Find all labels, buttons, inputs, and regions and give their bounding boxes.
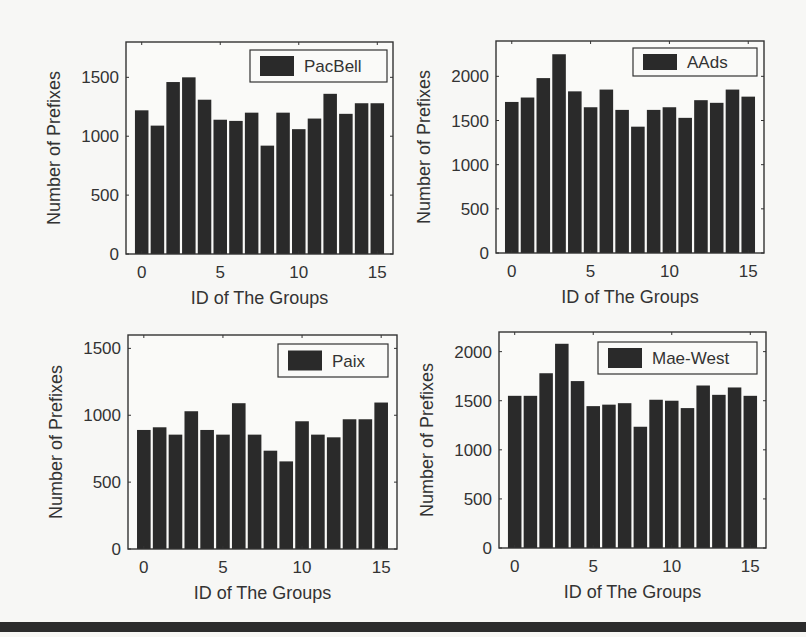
bottom-rule [0,622,806,632]
bar [198,100,212,254]
y-tick-label: 1000 [81,127,119,146]
y-tick-label: 2000 [451,67,489,86]
bar [600,90,614,253]
bar [264,451,278,549]
legend: PacBell [250,50,387,82]
y-tick-label: 500 [91,186,119,205]
legend-swatch [643,54,677,70]
bar [584,107,598,253]
x-tick-label: 15 [741,557,760,576]
legend-label: Mae-West [652,349,729,368]
bar [537,78,551,253]
bar [308,119,322,254]
y-axis-label: Number of Prefixes [417,363,437,517]
bar [232,403,246,549]
bar [311,435,325,549]
x-tick-label: 15 [368,263,387,282]
bar [634,427,648,548]
bar [571,381,585,548]
bar [521,98,535,253]
bar [151,126,165,254]
bar [618,403,632,548]
bar [169,435,183,549]
bar [371,103,385,254]
chart-panel-aads: 0500100015002000051015ID of The GroupsNu… [403,0,806,318]
bar [327,437,341,549]
y-axis-label: Number of Prefixes [46,365,66,519]
bar-chart: 0500100015002000051015ID of The GroupsNu… [403,0,806,318]
legend: AAds [633,48,757,76]
x-tick-label: 0 [137,263,146,282]
x-tick-label: 0 [510,557,519,576]
x-tick-label: 5 [216,263,225,282]
bar [355,103,369,254]
x-tick-label: 10 [660,262,679,281]
bar [213,120,227,254]
legend-swatch [608,348,642,368]
bar [245,113,259,254]
y-tick-label: 1000 [451,156,489,175]
bar [153,427,167,549]
y-axis-label: Number of Prefixes [44,71,64,225]
y-tick-label: 500 [464,490,492,509]
x-tick-label: 5 [218,558,227,577]
bar [744,396,758,548]
x-tick-label: 5 [586,262,595,281]
legend-label: PacBell [304,57,362,76]
bar [539,373,553,548]
x-tick-label: 5 [589,557,598,576]
chart-panel-paix: 050010001500051015ID of The GroupsNumber… [0,318,403,637]
chart-panel-mae-west: 0500100015002000051015ID of The GroupsNu… [403,318,806,637]
y-tick-label: 500 [93,473,121,492]
y-tick-label: 0 [112,540,121,559]
bar [568,91,582,253]
bar [552,54,566,253]
bar [631,127,645,253]
chart-panel-pacbell: 050010001500051015ID of The GroupsNumber… [0,0,403,318]
bar [343,419,357,549]
bar [182,77,196,254]
bar [166,82,180,254]
x-tick-label: 10 [662,557,681,576]
y-tick-label: 0 [483,539,492,558]
bar [229,121,243,254]
bar [694,100,708,253]
bar [649,400,663,548]
x-tick-label: 15 [372,558,391,577]
bar [184,411,198,549]
legend-label: AAds [687,53,728,72]
x-axis-label: ID of The Groups [564,582,702,602]
bar [681,408,695,548]
y-tick-label: 1500 [451,112,489,131]
bar [728,387,742,548]
bar-chart: 050010001500051015ID of The GroupsNumber… [0,0,403,318]
x-tick-label: 10 [289,263,308,282]
legend: Mae-West [598,342,757,374]
bar [726,90,740,253]
bar [200,430,214,549]
legend-swatch [260,56,294,76]
y-tick-label: 500 [461,200,489,219]
bar [665,401,679,548]
legend-label: Paix [332,352,366,371]
y-tick-label: 0 [110,245,119,264]
y-tick-label: 0 [480,244,489,263]
bar [135,110,149,254]
bar [615,110,629,253]
y-tick-label: 2000 [454,343,492,362]
y-tick-label: 1500 [81,68,119,87]
bar [339,114,353,254]
y-tick-label: 1500 [454,392,492,411]
bar [508,396,522,548]
x-tick-label: 0 [507,262,516,281]
legend-swatch [288,351,322,371]
bar [663,107,677,253]
figure: 050010001500051015ID of The GroupsNumber… [0,0,806,637]
x-axis-label: ID of The Groups [561,287,699,307]
bar [678,118,692,253]
bar [712,395,726,548]
bar [586,406,600,548]
bar [647,110,661,253]
bar [279,461,293,549]
x-tick-label: 15 [739,262,758,281]
